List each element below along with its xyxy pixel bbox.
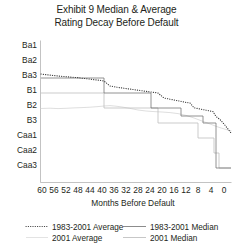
x-tick-36: 36 xyxy=(109,185,119,195)
y-tick-caa3: Caa3 xyxy=(17,160,37,170)
x-tick-48: 48 xyxy=(73,185,83,195)
x-axis-title: Months Before Default xyxy=(91,198,175,208)
y-tick-caa2: Caa2 xyxy=(17,145,37,155)
series-2001-average xyxy=(41,106,231,131)
x-tick-28: 28 xyxy=(133,185,143,195)
x-tick-20: 20 xyxy=(157,185,167,195)
x-tick-56: 56 xyxy=(49,185,59,195)
x-tick-40: 40 xyxy=(97,185,107,195)
y-tick-ba1: Ba1 xyxy=(22,40,37,50)
chart-container: Exhibit 9 Median & Average Rating Decay … xyxy=(0,0,233,248)
chart-legend: 1983-2001 Average 1983-2001 Median 2001 … xyxy=(26,223,219,243)
x-tick-8: 8 xyxy=(196,185,201,195)
series-1983-2001-median xyxy=(41,78,231,168)
series-2001-median xyxy=(41,93,231,168)
y-axis-tick-labels: Ba1 Ba2 Ba3 B1 B2 B3 Caa1 Caa2 Caa3 xyxy=(17,40,37,170)
x-tick-44: 44 xyxy=(85,185,95,195)
chart-plot: Ba1 Ba2 Ba3 B1 B2 B3 Caa1 Caa2 Caa3 60 5… xyxy=(0,0,233,248)
legend-label-2001-average: 2001 Average xyxy=(52,234,103,243)
series-1983-2001-average xyxy=(41,74,231,133)
y-tick-b1: B1 xyxy=(27,85,38,95)
legend-label-2001-median: 2001 Median xyxy=(150,234,198,243)
axis-frame xyxy=(41,41,232,183)
y-tick-b2: B2 xyxy=(27,100,38,110)
x-tick-32: 32 xyxy=(121,185,131,195)
legend-label-1983-2001-median: 1983-2001 Median xyxy=(150,223,219,232)
x-tick-24: 24 xyxy=(145,185,155,195)
x-axis-tick-labels: 60 56 52 48 44 40 36 32 28 24 20 16 12 8… xyxy=(37,185,226,195)
y-tick-ba3: Ba3 xyxy=(22,70,37,80)
y-tick-caa1: Caa1 xyxy=(17,130,37,140)
x-tick-16: 16 xyxy=(169,185,179,195)
x-tick-52: 52 xyxy=(61,185,71,195)
y-tick-b3: B3 xyxy=(27,115,38,125)
legend-label-1983-2001-average: 1983-2001 Average xyxy=(52,223,124,232)
x-tick-4: 4 xyxy=(209,185,214,195)
x-tick-0: 0 xyxy=(222,185,227,195)
x-tick-60: 60 xyxy=(37,185,47,195)
x-tick-12: 12 xyxy=(181,185,191,195)
y-tick-ba2: Ba2 xyxy=(22,55,37,65)
